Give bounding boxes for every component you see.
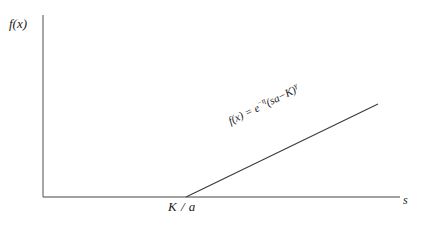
x-axis-tick-label-threshold: K / a — [168, 200, 196, 213]
function-ray — [186, 104, 378, 197]
plot-svg — [0, 0, 428, 228]
x-axis-label: s — [403, 194, 408, 206]
figure-canvas: f(x) s K / a f(x) = e−η(sa−K)γ — [0, 0, 428, 228]
y-axis-label: f(x) — [9, 17, 27, 30]
